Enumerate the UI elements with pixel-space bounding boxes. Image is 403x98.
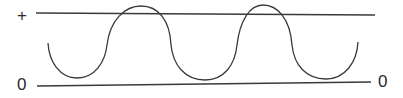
zero-label-left: 0 [17,76,26,93]
positive-level-line [36,13,375,15]
sine-wave [48,5,358,80]
zero-level-line [37,82,371,86]
waveform-canvas [0,0,403,98]
zero-label-right: 0 [378,73,387,90]
waveform-diagram: + 0 0 [0,0,403,98]
plus-label: + [17,7,27,24]
